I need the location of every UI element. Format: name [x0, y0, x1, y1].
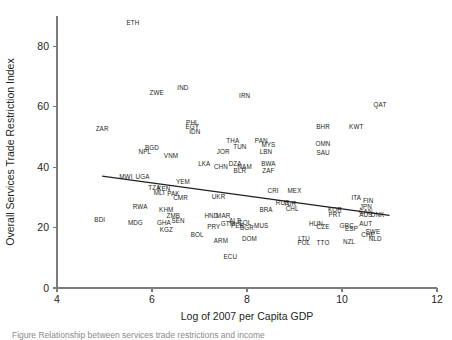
country-point-label: KWT [349, 123, 363, 130]
country-point-label: IDN [189, 128, 200, 135]
country-point-label: BDI [94, 216, 105, 223]
country-point-label: PRY [207, 223, 221, 230]
country-point-label: UGA [136, 173, 151, 180]
y-tick-label: 40 [37, 161, 49, 173]
country-point-label: MDG [128, 219, 143, 226]
country-point-label: DOM [242, 235, 257, 242]
country-point-label: LBN [260, 148, 273, 155]
country-point-label: VNM [164, 152, 178, 159]
x-tick-label: 12 [431, 293, 443, 305]
country-point-label: BHR [316, 123, 330, 130]
country-point-label: AUT [359, 220, 372, 227]
country-point-label: MUS [254, 222, 268, 229]
country-point-label: ZWE [150, 89, 164, 96]
country-point-label: MLI [154, 189, 165, 196]
country-point-label: NZL [343, 238, 356, 245]
figure-caption: Figure Relationship between services tra… [12, 330, 442, 340]
country-point-label: ZAF [262, 167, 274, 174]
country-point-label: SAU [316, 149, 330, 156]
y-axis-title: Overall Services Trade Restriction Index [4, 58, 16, 246]
x-tick-label: 6 [149, 293, 155, 305]
country-point-label: MWI [119, 173, 132, 180]
country-point-label: ZAR [96, 125, 109, 132]
country-point-label: NLD [369, 235, 382, 242]
country-point-label: ITA [351, 194, 361, 201]
country-point-label: PRT [328, 211, 341, 218]
country-point-label: QAT [374, 101, 387, 109]
x-tick-label: 10 [336, 293, 348, 305]
x-tick-label: 4 [54, 293, 60, 305]
country-point-label: CRI [268, 187, 279, 194]
country-point-label: DNK [371, 211, 385, 218]
y-tick-label: 0 [43, 282, 49, 294]
country-point-label: POL [298, 239, 311, 246]
country-point-label: KGZ [160, 226, 173, 233]
country-point-label: GHA [157, 219, 172, 226]
country-point-label: CMR [173, 194, 188, 201]
country-point-label: BWA [261, 160, 276, 167]
country-point-label: MYS [261, 141, 275, 148]
country-point-label: IRN [239, 92, 250, 99]
country-point-label: CHN [214, 163, 228, 170]
country-point-label: YEM [176, 178, 190, 185]
country-point-label: LKA [198, 160, 211, 167]
y-tick-label: 80 [37, 40, 49, 52]
country-point-label: CHL [286, 205, 299, 212]
country-point-label: NPL [139, 148, 152, 155]
country-point-label: TUN [233, 143, 247, 150]
x-tick-label: 8 [244, 293, 250, 305]
country-point-label: ESP [345, 225, 358, 232]
country-point-label: ETH [127, 19, 140, 26]
x-axis-title: Log of 2007 per Capita GDP [181, 310, 314, 322]
country-point-label: BGR [240, 224, 254, 231]
country-point-label: SEN [172, 217, 186, 224]
country-point-label: ECU [224, 253, 238, 260]
country-point-label: OMN [316, 140, 331, 147]
country-point-label: IND [177, 84, 188, 91]
data-point-labels: ETHZWEINDIRNQATZARPHLEGYIDNBHRKWTTHAPANM… [94, 19, 386, 260]
country-point-label: BOL [191, 231, 204, 238]
country-point-label: RWA [133, 203, 148, 210]
country-point-label: JOR [217, 148, 230, 155]
country-point-label: CZE [317, 223, 330, 230]
y-tick-label: 60 [37, 100, 49, 112]
country-point-label: UKR [212, 193, 226, 200]
country-point-label: ARM [214, 237, 228, 244]
country-point-label: BLR [234, 167, 247, 174]
country-point-label: MEX [288, 187, 303, 194]
country-point-label: BRA [259, 206, 273, 213]
y-tick-label: 20 [37, 221, 49, 233]
country-point-label: TTO [317, 239, 330, 246]
